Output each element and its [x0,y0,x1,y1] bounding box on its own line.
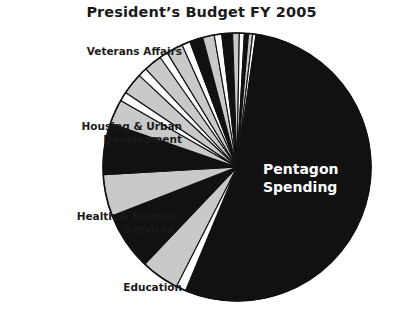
budget-pie-chart-figure: President’s Budget FY 2005 Veterans Affa… [0,0,403,320]
slice-label-pentagon-spending: Pentagon Spending [263,160,383,196]
slice-label-health-human-services: Health & Human Services [6,210,174,235]
slice-label-housing-urban-development: Housing & Urban Development [6,120,182,145]
slice-label-education: Education [40,281,182,294]
slice-label-veterans-affairs: Veterans Affairs [40,45,182,58]
